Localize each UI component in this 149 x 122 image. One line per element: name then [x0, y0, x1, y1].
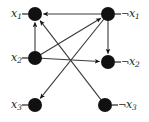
graph-node-nx1 — [101, 7, 115, 21]
graph-node-nx3 — [98, 98, 112, 112]
graph-edge — [40, 18, 101, 55]
graph-node-nx2 — [101, 55, 115, 69]
node-label-x2: x2 — [11, 52, 22, 64]
node-label-nx2: ¬x2 — [121, 56, 140, 68]
node-label-nx1: ¬x1 — [121, 8, 140, 20]
edge-layer — [35, 14, 108, 100]
implication-graph-figure: x1¬x1x2¬x2x3¬x3 — [0, 0, 149, 122]
graph-node-x2 — [28, 51, 42, 65]
node-label-nx3: ¬x3 — [118, 99, 137, 111]
graph-node-x3 — [28, 98, 42, 112]
node-label-x3: x3 — [11, 99, 22, 111]
node-label-x1: x1 — [11, 8, 22, 20]
graph-node-x1 — [28, 7, 42, 21]
